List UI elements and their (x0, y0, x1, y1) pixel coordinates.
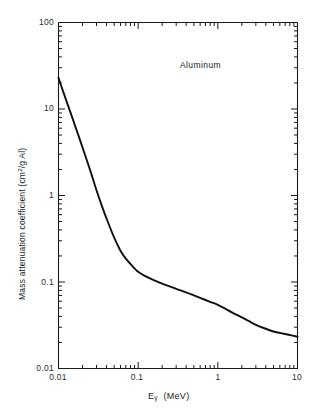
y-axis-title-tail: /g Al) (17, 148, 27, 169)
data-series-line-aluminum (59, 78, 298, 337)
xtick-label-1: 1 (205, 372, 231, 382)
ytick-label-10: 10 (28, 103, 54, 113)
ytick-label-1: 1 (28, 190, 54, 200)
x-axis-title-subscript: γ (154, 394, 158, 401)
xtick-label-10: 10 (283, 372, 311, 382)
ytick-label-100: 100 (28, 17, 54, 27)
x-axis-title-unit: (MeV) (163, 391, 189, 401)
chart-plot-area (0, 0, 323, 415)
y-axis-title: Mass attenuation coefficient (cm2/g Al) (16, 148, 27, 300)
xtick-label-0.1: 0.1 (123, 372, 151, 382)
series-annotation-aluminum: Aluminum (180, 60, 221, 70)
ytick-label-0.1: 0.1 (28, 277, 54, 287)
y-axis-title-exponent: 2 (16, 168, 23, 172)
xtick-label-0.01: 0.01 (42, 372, 74, 382)
x-axis-title: Eγ (MeV) (148, 391, 189, 401)
figure-mass-attenuation-aluminum: 100 10 1 0.1 0.01 0.01 0.1 1 10 Aluminum… (0, 0, 323, 415)
y-axis-title-main: Mass attenuation coefficient (cm (17, 172, 27, 300)
